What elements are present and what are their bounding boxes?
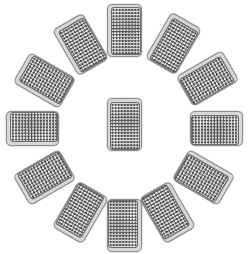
playing-card-clock-10[interactable] [13, 52, 76, 109]
card-back-pattern [17, 151, 74, 201]
card-back-pattern [110, 102, 140, 150]
playing-card-centre[interactable] [107, 98, 142, 151]
card-back-pattern [141, 184, 191, 241]
playing-card-clock-7[interactable] [52, 181, 109, 244]
playing-card-clock-2[interactable] [176, 50, 239, 107]
playing-card-clock-9[interactable] [6, 111, 59, 146]
card-back-pattern [192, 115, 240, 145]
card-layout-canvas [0, 0, 250, 254]
card-back-pattern [55, 183, 105, 240]
playing-card-clock-12[interactable] [107, 4, 142, 57]
playing-card-clock-4[interactable] [172, 149, 235, 206]
playing-card-clock-3[interactable] [190, 111, 243, 146]
card-back-pattern [18, 55, 75, 105]
card-back-pattern [109, 201, 139, 249]
playing-card-clock-8[interactable] [13, 149, 76, 206]
card-back-pattern [174, 152, 231, 202]
card-back-pattern [56, 17, 106, 74]
playing-card-clock-5[interactable] [139, 181, 196, 244]
card-back-pattern [148, 17, 198, 74]
card-back-pattern [111, 7, 141, 55]
card-back-pattern [9, 113, 57, 143]
playing-card-clock-11[interactable] [52, 13, 109, 76]
playing-card-clock-6[interactable] [107, 199, 142, 252]
card-back-pattern [179, 55, 236, 105]
